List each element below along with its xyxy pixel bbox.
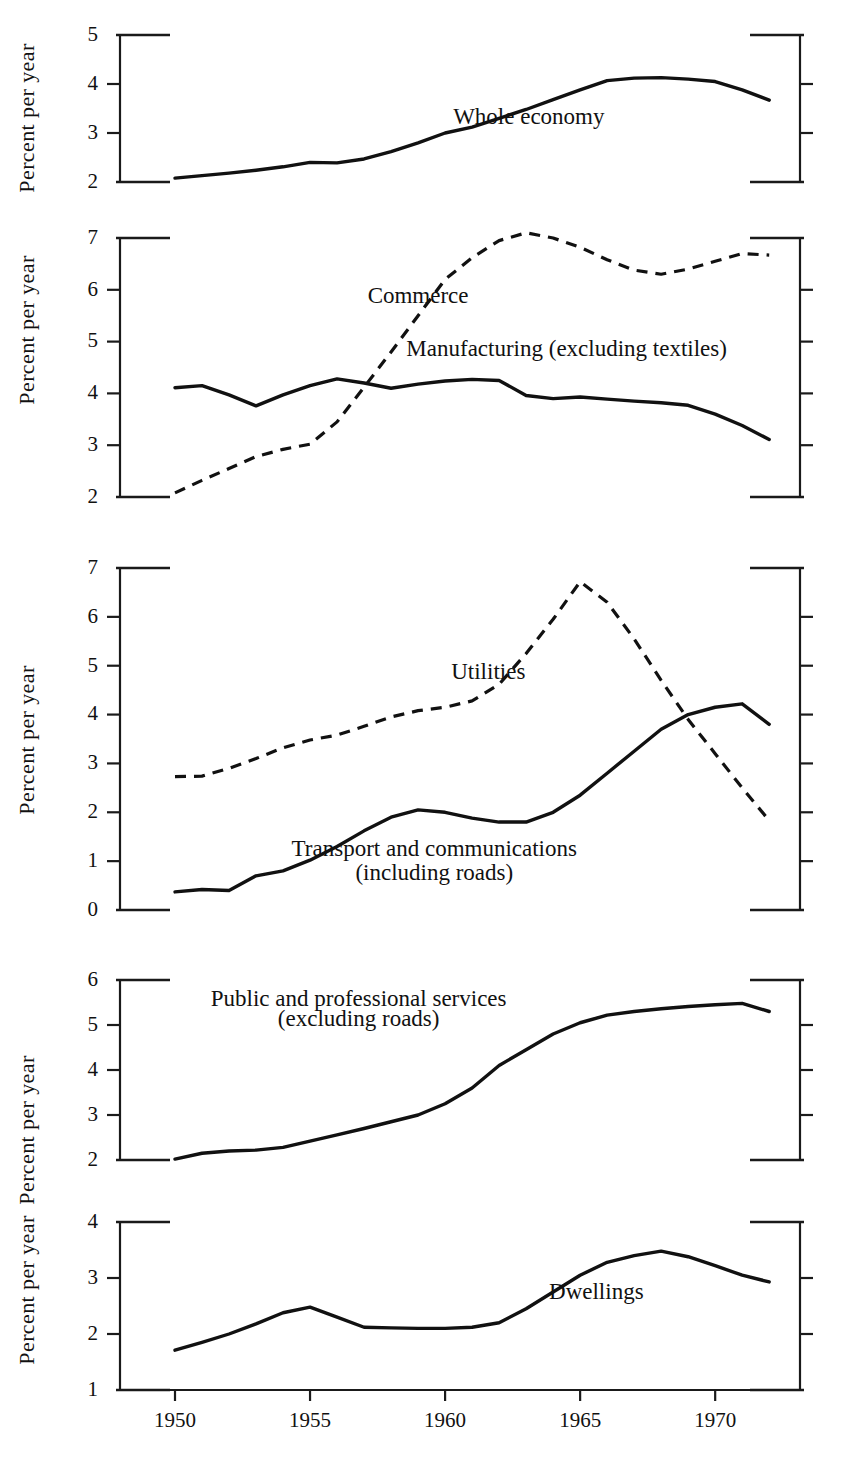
y-tick-label: 4 xyxy=(88,1057,99,1081)
y-tick-label: 4 xyxy=(88,71,99,95)
series-label-manufacturing-excluding-textiles: Manufacturing (excluding textiles) xyxy=(406,336,727,361)
y-tick-label: 2 xyxy=(88,1147,99,1171)
series-label-continuation: (including roads) xyxy=(355,860,513,885)
multi-panel-line-chart: 2345Whole economy234567CommerceManufactu… xyxy=(0,0,860,1465)
y-tick-label: 3 xyxy=(88,1102,99,1126)
y-tick-label: 6 xyxy=(88,604,99,628)
y-tick-label: 5 xyxy=(88,653,99,677)
y-tick-label: 5 xyxy=(88,328,99,352)
y-tick-label: 0 xyxy=(88,897,99,921)
x-tick-label: 1950 xyxy=(154,1408,196,1432)
y-tick-label: 2 xyxy=(88,169,99,193)
y-tick-label: 3 xyxy=(88,1265,99,1289)
series-label-whole-economy: Whole economy xyxy=(453,104,605,129)
x-tick-label: 1960 xyxy=(424,1408,466,1432)
y-tick-label: 7 xyxy=(88,555,99,579)
y-tick-label: 2 xyxy=(88,484,99,508)
y-tick-label: 2 xyxy=(88,799,99,823)
series-label-utilities: Utilities xyxy=(451,659,525,684)
series-label-transport-and-communications: Transport and communications xyxy=(292,836,577,861)
x-tick-label: 1965 xyxy=(559,1408,601,1432)
y-tick-label: 4 xyxy=(88,701,99,725)
x-tick-label: 1955 xyxy=(289,1408,331,1432)
y-tick-label: 3 xyxy=(88,432,99,456)
y-axis-title-5: Percent per year xyxy=(14,1215,39,1365)
y-tick-label: 2 xyxy=(88,1321,99,1345)
series-label-continuation: (excluding roads) xyxy=(278,1006,440,1031)
series-label-commerce: Commerce xyxy=(368,283,469,308)
y-tick-label: 1 xyxy=(88,1377,99,1401)
y-tick-label: 3 xyxy=(88,750,99,774)
y-axis-title-4: Percent per year xyxy=(14,1055,39,1205)
y-tick-label: 3 xyxy=(88,120,99,144)
y-axis-title-1: Percent per year xyxy=(14,43,39,193)
y-tick-label: 7 xyxy=(88,225,99,249)
y-tick-label: 6 xyxy=(88,967,99,991)
y-tick-label: 6 xyxy=(88,277,99,301)
x-tick-label: 1970 xyxy=(694,1408,736,1432)
y-tick-label: 4 xyxy=(88,380,99,404)
y-tick-label: 5 xyxy=(88,1012,99,1036)
figure-root: 2345Whole economy234567CommerceManufactu… xyxy=(0,0,860,1465)
y-tick-label: 4 xyxy=(88,1209,99,1233)
y-axis-title-2: Percent per year xyxy=(14,255,39,405)
figure-background xyxy=(0,0,860,1465)
y-tick-label: 1 xyxy=(88,848,99,872)
y-tick-label: 5 xyxy=(88,22,99,46)
y-axis-title-3: Percent per year xyxy=(14,665,39,815)
series-label-dwellings: Dwellings xyxy=(549,1279,644,1304)
